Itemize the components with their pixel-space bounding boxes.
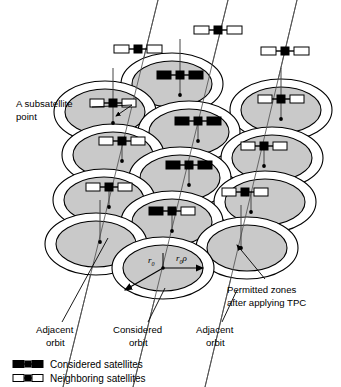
subsatellite-point [187, 183, 191, 187]
considered-line1: Considered [113, 324, 162, 335]
permitted-label-line2: after applying TPC [227, 297, 306, 308]
adjacent-right-line1: Adjacent [196, 324, 234, 335]
adjacent-left-line2: orbit [46, 337, 65, 348]
subsatellite-point [178, 93, 182, 97]
subsatellite-label-line1: A subsatellite [16, 98, 73, 109]
considered-satellite-icon [166, 161, 212, 170]
subsatellite-point [170, 229, 174, 233]
subsatellite-point [111, 121, 115, 125]
subsatellite-point [98, 240, 102, 244]
adjacent-left-line1: Adjacent [36, 324, 74, 335]
neighboring-satellite-icon [13, 375, 43, 382]
legend-label-neighboring: Neighboring satellites [50, 373, 146, 384]
subsatellite-point [279, 117, 283, 121]
neighboring-satellite-icon [99, 137, 145, 146]
neighboring-satellite-icon [222, 188, 268, 197]
considered-satellite-icon [175, 117, 221, 126]
subsatellite-label-line2: point [16, 111, 37, 122]
considered-satellite-icon [157, 71, 203, 80]
adjacent-right-line2: orbit [206, 337, 225, 348]
neighboring-satellite-icon [241, 142, 287, 151]
neighboring-satellite-icon [114, 45, 162, 54]
permitted-label-line1: Permitted zones [227, 284, 297, 295]
considered-satellite-icon [149, 207, 195, 216]
neighboring-satellite-icon [261, 47, 309, 56]
subsatellite-point [120, 159, 124, 163]
considered-satellite-icon [13, 361, 43, 368]
subsatellite-point [107, 205, 111, 209]
considered-line2: orbit [129, 337, 148, 348]
neighboring-satellite-icon [258, 95, 304, 104]
inner-radius-label: r0ρ [176, 253, 188, 265]
legend-label-considered: Considered satellites [50, 359, 143, 370]
considered-satellite-icon [194, 26, 242, 35]
subsatellite-point [249, 210, 253, 214]
neighboring-satellite-icon [86, 183, 132, 192]
subsatellite-point [196, 139, 200, 143]
satellite-coverage-figure: r0 r0ρ A subsatellite point Permitted zo… [0, 0, 341, 387]
subsatellite-point [262, 164, 266, 168]
